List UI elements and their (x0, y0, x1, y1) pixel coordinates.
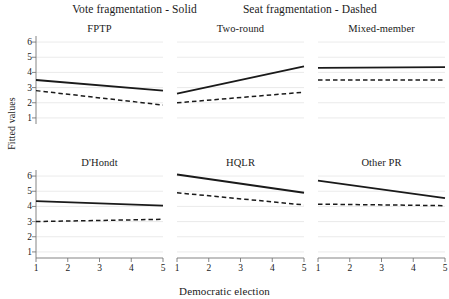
plot-area (36, 36, 163, 140)
series-line-dashed (177, 92, 304, 103)
facet-panel-title: Two-round (177, 22, 304, 35)
facet-panel-title: HQLR (177, 156, 304, 169)
facet-panel-title: Mixed-member (318, 22, 445, 35)
x-tick-label: 4 (411, 263, 416, 273)
plot-area (36, 170, 163, 274)
series-line-solid (36, 80, 163, 91)
facet-panel-d-hondt: D'Hondt12345612345 (36, 156, 163, 274)
series-line-solid (36, 201, 163, 206)
plot-area (177, 36, 304, 140)
x-tick-label-group: 12345 (36, 263, 163, 277)
x-tick-label: 2 (347, 263, 352, 273)
legend: Vote fragmentation - Solid Seat fragment… (0, 3, 449, 15)
facet-panel-title: Other PR (318, 156, 445, 169)
series-line-solid (318, 67, 445, 68)
x-tick-label: 2 (206, 263, 211, 273)
x-tick-label: 2 (65, 263, 70, 273)
x-tick-label-group: 12345 (177, 263, 304, 277)
plot-area (177, 170, 304, 274)
x-tick-label: 5 (443, 263, 448, 273)
x-tick-label: 4 (270, 263, 275, 273)
y-tick-label: 6 (12, 171, 32, 181)
series-line-dashed (318, 204, 445, 206)
x-tick-label: 1 (316, 263, 321, 273)
plot-area (318, 170, 445, 274)
figure: Vote fragmentation - Solid Seat fragment… (0, 0, 449, 299)
x-axis-label: Democratic election (0, 285, 449, 297)
facet-panel-title: D'Hondt (36, 156, 163, 169)
y-tick-label: 6 (12, 37, 32, 47)
plot-area (318, 36, 445, 140)
y-tick-label: 1 (12, 113, 32, 123)
x-tick-label: 3 (238, 263, 243, 273)
y-tick-label: 5 (12, 186, 32, 196)
y-tick-label: 2 (12, 98, 32, 108)
y-tick-label: 5 (12, 52, 32, 62)
facet-panel-two-round: Two-round (177, 22, 304, 140)
x-tick-label: 5 (161, 263, 166, 273)
x-tick-label: 3 (379, 263, 384, 273)
y-tick-label: 3 (12, 83, 32, 93)
legend-vote-fragmentation: Vote fragmentation - Solid (72, 3, 197, 15)
facet-panel-other-pr: Other PR12345 (318, 156, 445, 274)
series-line-solid (177, 175, 304, 193)
x-tick-label-group: 12345 (318, 263, 445, 277)
facet-grid: FPTP123456Two-roundMixed-memberD'Hondt12… (36, 22, 445, 274)
x-tick-label: 1 (175, 263, 180, 273)
y-tick-label: 4 (12, 67, 32, 77)
series-line-solid (177, 66, 304, 93)
y-tick-label: 2 (12, 232, 32, 242)
facet-panel-fptp: FPTP123456 (36, 22, 163, 140)
facet-panel-mixed-member: Mixed-member (318, 22, 445, 140)
x-tick-label: 5 (302, 263, 307, 273)
facet-panel-title: FPTP (36, 22, 163, 35)
x-tick-label: 3 (97, 263, 102, 273)
y-tick-label: 1 (12, 247, 32, 257)
x-tick-label: 1 (34, 263, 39, 273)
y-tick-label: 4 (12, 201, 32, 211)
series-line-dashed (177, 193, 304, 205)
facet-panel-hqlr: HQLR12345 (177, 156, 304, 274)
y-tick-label: 3 (12, 217, 32, 227)
x-tick-label: 4 (129, 263, 134, 273)
legend-seat-fragmentation: Seat fragmentation - Dashed (243, 3, 377, 15)
series-line-solid (318, 181, 445, 198)
